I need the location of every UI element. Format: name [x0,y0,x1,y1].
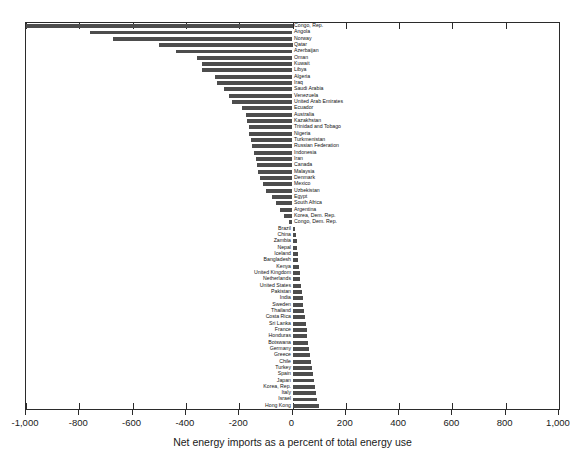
bar-row: Kazakhstan [26,119,559,123]
bar [215,75,292,79]
bar-row: Venezuela [26,94,559,98]
x-tick-label: 600 [443,417,459,428]
bar-row: Ecuador [26,106,559,110]
bar-row: Thailand [26,309,559,313]
bar-row: Azerbaijan [26,50,559,54]
x-tick-mark [505,410,506,415]
bar-row: Japan [26,379,559,383]
x-tick-mark [345,410,346,415]
bar [276,201,293,205]
bar-row: Germany [26,347,559,351]
x-tick-mark [25,410,26,415]
bar [258,170,293,174]
bar [293,347,310,351]
bar-row: Korea, Dem. Rep. [26,214,559,218]
bar [293,315,306,319]
x-tick-label: 400 [390,417,406,428]
bar-row: Iceland [26,252,559,256]
bar [293,246,298,250]
bar [26,24,293,28]
bar [293,391,316,395]
bar [176,50,292,54]
x-tick-label: -1,000 [12,417,39,428]
bar-row: Egypt [26,195,559,199]
bottom-tick-mark [559,403,560,409]
bar [293,303,304,307]
bar-row: France [26,328,559,332]
x-tick-label: 800 [497,417,513,428]
bar [247,119,292,123]
bar [293,227,296,231]
plot-frame: Congo, Rep.AngolaNorwayQatarAzerbaijanOm… [25,22,560,410]
bar [293,271,300,275]
x-tick-label: 1,000 [546,417,570,428]
bar-row: Korea, Rep. [26,385,559,389]
bar [293,360,311,364]
x-tick-label: -200 [229,417,248,428]
bar [280,208,293,212]
bar [293,379,314,383]
bar [293,239,297,243]
x-tick-label: 0 [289,417,294,428]
bar-row: Sri Lanka [26,322,559,326]
bar-row: India [26,296,559,300]
bar-row: Israel [26,398,559,402]
x-axis-title: Net energy imports as a percent of total… [25,436,560,448]
bar-row: Turkmenistan [26,138,559,142]
bar [242,106,293,110]
bar-row: Turkey [26,366,559,370]
bar-row: Oman [26,56,559,60]
bar-row: Netherlands [26,277,559,281]
bar-row: Hong Kong [26,404,559,408]
bar [289,220,293,224]
x-tick-label: -400 [175,417,194,428]
bar-row: Nepal [26,246,559,250]
bar [293,328,307,332]
bar-row: Australia [26,113,559,117]
x-tick-label: -600 [122,417,141,428]
bar [272,195,293,199]
bar [293,398,317,402]
bar [90,31,293,35]
bar-row: Spain [26,372,559,376]
bar [232,100,293,104]
bar [202,68,292,72]
bar-row: Angola [26,31,559,35]
bar [284,214,293,218]
bar [257,163,292,167]
bar-row: Kuwait [26,62,559,66]
bar-row: Iran [26,157,559,161]
bar [293,334,308,338]
plot-area: Congo, Rep.AngolaNorwayQatarAzerbaijanOm… [26,23,559,409]
bar [159,43,292,47]
bar-row: Brazil [26,227,559,231]
bar [293,296,303,300]
bar [293,277,301,281]
x-tick-mark [132,410,133,415]
bar-row: Qatar [26,43,559,47]
bar [249,125,293,129]
bar [254,151,292,155]
bar [293,366,312,370]
bar [217,81,293,85]
bar-row: Argentina [26,208,559,212]
bar [256,157,293,161]
x-tick-label: 200 [337,417,353,428]
x-tick-label: -800 [69,417,88,428]
x-tick-mark [451,410,452,415]
x-tick-mark [558,410,559,415]
bar [202,62,293,66]
bar-row: Kenya [26,265,559,269]
bar-row: Canada [26,163,559,167]
bar-row: South Africa [26,201,559,205]
bar [229,94,292,98]
bar [246,113,293,117]
x-tick-mark [238,410,239,415]
bar-row: Saudi Arabia [26,87,559,91]
bar-label: Congo, Dem. Rep. [294,220,337,225]
bar [293,385,315,389]
bar-row: Trinidad and Tobago [26,125,559,129]
x-tick-mark [185,410,186,415]
bar-chart: Congo, Rep.AngolaNorwayQatarAzerbaijanOm… [0,0,584,461]
bar [293,404,320,408]
